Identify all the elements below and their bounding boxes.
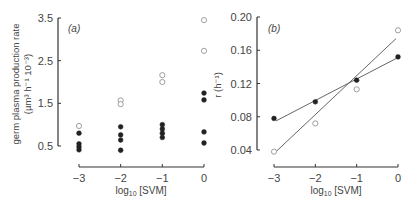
filled-circle-point <box>202 98 207 103</box>
y-tick-label: 0.12 <box>231 78 252 90</box>
panel-b-data-points <box>271 28 400 155</box>
filled-circle-point <box>118 148 123 153</box>
filled-circle-point <box>202 91 207 96</box>
open-circle-point <box>160 79 165 84</box>
open-circle-point <box>271 149 276 154</box>
open-circle-point <box>118 102 123 107</box>
x-tick-label: −2 <box>309 172 322 184</box>
filled-circle-point <box>118 124 123 129</box>
panel-b-label: (b) <box>268 23 280 34</box>
panel-b: 0.040.080.120.160.20 −3−2−10 (b) log10 [… <box>212 11 401 197</box>
panel-b-x-label: log10 [SVM] <box>310 185 361 197</box>
open-circle-point <box>395 28 400 33</box>
open-circle-point <box>160 73 165 78</box>
y-tick-label: 0.16 <box>231 44 252 56</box>
x-tick-label: −1 <box>350 172 363 184</box>
panel-a-y-label-line2: (µm³ h⁻¹ 10⁻³) <box>22 54 33 114</box>
y-tick-label: 0.5 <box>38 140 53 152</box>
panel-a-x-label: log10 [SVM] <box>115 185 166 197</box>
x-tick-label: −1 <box>156 172 169 184</box>
open-circle-point <box>76 123 81 128</box>
y-tick-label: 1.5 <box>38 97 53 109</box>
x-tick-label: −3 <box>73 172 86 184</box>
panel-b-fit-lines <box>276 39 396 152</box>
fit-line <box>276 39 396 152</box>
open-circle-point <box>313 121 318 126</box>
x-tick-label: 0 <box>395 172 401 184</box>
y-tick-label: 0.08 <box>231 111 252 123</box>
filled-circle-point <box>202 141 207 146</box>
open-circle-point <box>201 48 206 53</box>
x-tick-label: −2 <box>114 172 127 184</box>
panel-b-y-label: r (h⁻¹) <box>212 72 223 98</box>
figure: 0.51.52.53.5 −3−2−10 (a) log10 [SVM] ger… <box>0 0 411 209</box>
filled-circle-point <box>77 147 82 152</box>
panel-a: 0.51.52.53.5 −3−2−10 (a) log10 [SVM] ger… <box>10 12 207 197</box>
open-circle-point <box>201 18 206 23</box>
fit-line <box>276 59 396 121</box>
open-circle-point <box>354 87 359 92</box>
filled-circle-point <box>118 138 123 143</box>
y-tick-label: 3.5 <box>38 12 53 24</box>
filled-circle-point <box>396 55 401 60</box>
panel-a-data-points <box>76 18 206 153</box>
y-tick-label: 0.04 <box>231 144 252 156</box>
filled-circle-point <box>77 131 82 136</box>
filled-circle-point <box>160 135 165 140</box>
panel-b-y-ticks: 0.040.080.120.160.20 <box>231 11 260 156</box>
panel-a-label: (a) <box>68 23 80 34</box>
panel-a-y-label-line1: germ plasma production rate <box>10 24 21 145</box>
y-tick-label: 0.20 <box>231 11 252 23</box>
filled-circle-point <box>272 116 277 121</box>
filled-circle-point <box>118 133 123 138</box>
filled-circle-point <box>313 99 318 104</box>
x-tick-label: 0 <box>201 172 207 184</box>
filled-circle-point <box>202 130 207 135</box>
filled-circle-point <box>354 78 359 83</box>
y-tick-label: 2.5 <box>38 55 53 67</box>
x-tick-label: −3 <box>268 172 281 184</box>
